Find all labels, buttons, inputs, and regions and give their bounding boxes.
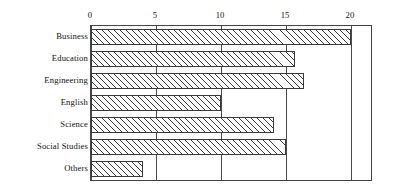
bar-engineering: [91, 73, 304, 89]
bar-science: [91, 117, 274, 133]
bar-chart: 0 5 10 15 20 Business Education Engineer…: [0, 0, 393, 195]
x-tick-label: 0: [80, 10, 100, 21]
category-label-science: Science: [0, 119, 88, 129]
category-label-engineering: Engineering: [0, 75, 88, 85]
bar-others: [91, 161, 143, 177]
x-axis-tick-labels: 0 5 10 15 20: [0, 10, 393, 24]
bar-social-studies: [91, 139, 286, 155]
bar-business: [91, 29, 351, 45]
x-tick-label: 20: [340, 10, 360, 21]
category-label-english: English: [0, 97, 88, 107]
x-tick-label: 5: [145, 10, 165, 21]
bar-english: [91, 95, 221, 111]
gridline: [221, 26, 222, 180]
bar-education: [91, 51, 295, 67]
plot-area: [90, 25, 372, 181]
x-tick-label: 15: [275, 10, 295, 21]
category-label-social-studies: Social Studies: [0, 141, 88, 151]
gridline: [286, 26, 287, 180]
category-label-education: Education: [0, 53, 88, 63]
x-tick-label: 10: [210, 10, 230, 21]
category-label-business: Business: [0, 31, 88, 41]
category-label-others: Others: [0, 163, 88, 173]
y-axis-category-labels: Business Education Engineering English S…: [0, 25, 88, 182]
gridline: [351, 26, 352, 180]
